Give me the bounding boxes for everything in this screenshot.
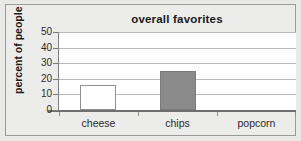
y-tick-label-40: 40 <box>6 43 52 53</box>
y-tick-label-10: 10 <box>6 89 52 99</box>
y-tick-mark-40 <box>53 48 59 49</box>
y-tick-mark-20 <box>53 79 59 80</box>
plot-area <box>59 32 296 110</box>
y-tick-label-0: 0 <box>6 105 52 115</box>
chart-card: overall favorites percent of people 50 <box>5 4 296 136</box>
y-tick-mark-0 <box>53 110 59 111</box>
y-axis-line <box>58 32 59 111</box>
x-tick-mark-start <box>59 112 60 116</box>
y-tick-label-50: 50 <box>6 27 52 37</box>
y-tick-label-20: 20 <box>6 74 52 84</box>
y-tick-label-30: 30 <box>6 58 52 68</box>
x-category-label-chips: chips <box>138 117 217 129</box>
y-tick-mark-10 <box>53 94 59 95</box>
gridline-50 <box>59 32 296 33</box>
bar-chips <box>160 71 196 110</box>
gridline-30 <box>59 63 296 64</box>
chart-screenshot: overall favorites percent of people 50 <box>0 0 301 141</box>
chart-title: overall favorites <box>58 13 296 25</box>
x-tick-mark-end <box>295 112 296 116</box>
y-tick-mark-30 <box>53 63 59 64</box>
x-tick-mark-2 <box>217 112 218 116</box>
x-tick-mark-1 <box>138 112 139 116</box>
x-axis-line <box>48 110 296 112</box>
y-tick-mark-50 <box>53 32 59 33</box>
x-category-label-popcorn: popcorn <box>217 117 296 129</box>
x-category-label-cheese: cheese <box>59 117 138 129</box>
bar-cheese <box>80 85 116 110</box>
gridline-40 <box>59 48 296 49</box>
